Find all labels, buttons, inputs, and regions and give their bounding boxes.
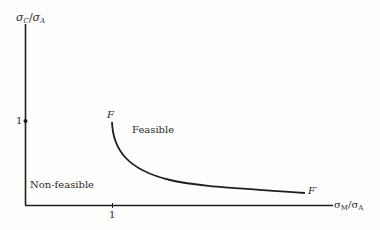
y-label-denominator: σ [33, 11, 41, 24]
x-axis-label: σM/σA [334, 200, 363, 212]
tradeoff-diagram: σC/σA σM/σA 1 1 F F′ Feasible Non-feasib… [0, 0, 380, 230]
x-label-denominator-subscript: A [358, 204, 363, 212]
curve-end-label: F′ [308, 186, 317, 196]
non-feasible-region-label: Non-feasible [30, 180, 94, 190]
curve-start-label: F [107, 110, 114, 120]
y-tick-label: 1 [16, 116, 22, 126]
x-label-numerator: σ [334, 199, 341, 210]
y-label-numerator: σ [16, 11, 24, 24]
x-tick-label: 1 [109, 210, 115, 220]
diagram-graphics [0, 0, 380, 230]
x-label-numerator-subscript: M [341, 204, 348, 212]
y-tick-marker [24, 119, 28, 123]
y-axis-label: σC/σA [16, 12, 45, 25]
y-label-denominator-subscript: A [40, 17, 45, 25]
feasible-region-label: Feasible [132, 125, 174, 135]
